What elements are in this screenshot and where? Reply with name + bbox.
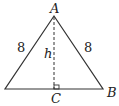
label-b: B <box>106 85 117 100</box>
label-h: h <box>44 46 52 61</box>
triangle-diagram: A B C h 8 8 <box>0 0 119 106</box>
label-c: C <box>51 91 61 106</box>
label-a: A <box>49 1 59 16</box>
left-side-length: 8 <box>17 40 25 55</box>
right-side-length: 8 <box>84 40 92 55</box>
